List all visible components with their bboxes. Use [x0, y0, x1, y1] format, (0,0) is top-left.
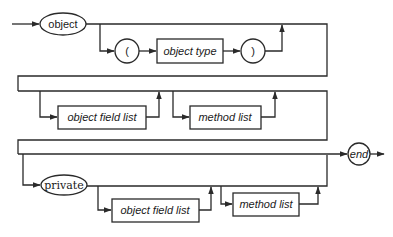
object-field-list-box: object field list [58, 106, 146, 129]
row3-field-list-return [199, 187, 211, 210]
row3-branch-method-list [221, 186, 232, 204]
row-2: object field list method list [18, 91, 327, 154]
open-paren-label: ( [125, 45, 129, 57]
row2-field-list-return [146, 92, 159, 117]
private-method-list-label: method list [239, 198, 293, 210]
private-method-list-box: method list [233, 193, 299, 216]
method-list-box: method list [190, 106, 261, 129]
row1-return-arrow [265, 25, 282, 51]
row2-branch-field-list [40, 91, 57, 117]
object-type-label: object type [163, 45, 216, 57]
syntax-diagram: object ( object type ) object field list [0, 0, 393, 237]
object-keyword-oval: object [40, 13, 86, 35]
open-paren-circle: ( [115, 39, 139, 63]
row3-branch-private [23, 154, 40, 185]
object-keyword-label: object [48, 18, 77, 30]
row-3: end private object field list method lis… [18, 143, 384, 222]
row3-method-list-return [299, 187, 318, 204]
private-keyword-oval: private [41, 175, 87, 195]
object-field-list-label: object field list [67, 111, 137, 123]
object-type-box: object type [157, 39, 223, 63]
row-1: object ( object type ) [12, 13, 327, 91]
close-paren-circle: ) [241, 39, 265, 63]
row2-branch-method-list [173, 91, 189, 117]
private-keyword-label: private [44, 179, 84, 192]
private-object-field-list-box: object field list [112, 199, 199, 222]
private-object-field-list-label: object field list [120, 204, 190, 216]
end-keyword-label: end [350, 148, 369, 160]
row2-method-list-return [261, 92, 275, 117]
row3-branch-field-list [98, 186, 111, 210]
close-paren-label: ) [251, 45, 255, 57]
row3-private-rail [87, 155, 327, 186]
method-list-label: method list [198, 111, 252, 123]
row1-branch [100, 24, 114, 51]
end-keyword-circle: end [348, 143, 370, 165]
